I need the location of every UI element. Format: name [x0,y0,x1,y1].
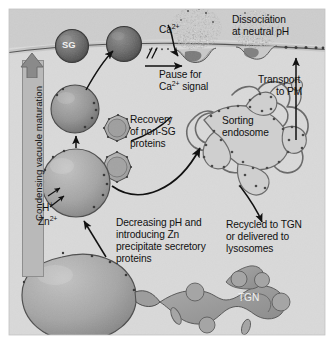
label-zinc: Zn2+ [27,205,57,238]
secretory-granule-docked [107,27,142,62]
label-dissociation-line1: Dissociation [232,14,286,25]
tgn-vesicle [186,283,204,301]
label-decreasing-line4: proteins [116,253,151,264]
label-recycled-line2: or delivered to [226,231,289,242]
label-decreasing-line3: precipitate secretory [116,241,206,252]
label-decreasing-line2: introducing Zn [116,229,179,240]
label-calcium: Ca2+ [148,13,179,46]
label-transport-line2: to PM [276,86,302,97]
label-sorting-line1: Sorting [222,115,254,126]
label-sorting-line2: endosome [222,127,269,138]
tgn-vesicle [272,293,290,311]
label-tgn: TGN [238,292,259,303]
label-sg: SG [62,40,75,50]
label-recycled-line3: lysosomes [226,243,273,254]
label-dissociation-line2: at neutral pH [232,26,289,37]
label-pause-signal: Ca2+ signal [148,70,208,103]
tgn-vesicle [231,271,247,287]
immature-granule [51,85,99,133]
tgn-vesicle [255,273,270,288]
label-recycled-line1: Recycled to TGN [226,219,302,230]
label-recovery-line1: Recovery [130,114,172,125]
tgn-vesicle [199,317,215,333]
diagram-artwork [0,0,334,344]
label-recovery-line3: proteins [130,138,165,149]
label-recovery-line2: of non-SG [130,126,176,137]
label-transport-line1: Transport [258,74,300,85]
label-decreasing-line1: Decreasing pH and [116,217,202,228]
figure-root: Condensing vacuole maturation SG Ca2+ Pa… [0,0,334,344]
